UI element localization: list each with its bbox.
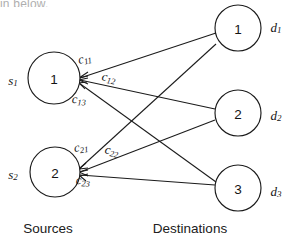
source-label-s2: s2 [8, 167, 18, 182]
source-label-s1: s1 [8, 73, 18, 88]
destination-node-d2-number: 2 [234, 107, 242, 122]
source-node-s1-number: 1 [50, 72, 58, 87]
edge-s2-d1 [79, 44, 216, 169]
source-node-s2[interactable]: 2 [30, 147, 80, 197]
destination-label-d2: d2 [271, 108, 283, 123]
destinations-caption: Destinations [153, 221, 228, 236]
destination-label-d3: d3 [271, 184, 283, 199]
edge-label-c11: c11 [76, 50, 92, 67]
bipartite-diagram-figure: in below. 1 2 1 [0, 0, 290, 243]
edge-label-c21: c21 [73, 139, 89, 155]
destination-node-d1-number: 1 [234, 22, 242, 37]
edge-label-c13: c13 [72, 92, 87, 107]
edge-s2-d3 [80, 175, 215, 185]
edge-s2-d2 [80, 120, 215, 172]
edge-group [79, 33, 216, 185]
destination-label-d1: d1 [271, 20, 282, 35]
source-node-s2-number: 2 [51, 166, 59, 181]
sources-caption: Sources [23, 221, 73, 236]
edge-s1-d2 [80, 80, 215, 109]
destination-node-d3-number: 3 [234, 182, 242, 197]
edge-label-c12: c12 [101, 69, 118, 86]
destination-node-d1[interactable]: 1 [215, 5, 261, 51]
edge-s1-d3 [79, 83, 216, 182]
arrowhead-s2-d1 [79, 163, 88, 169]
edge-s1-d1 [80, 33, 216, 78]
graph-canvas: 1 2 1 2 3 s1 s2 d1 d2 d3 c11 c12 c13 c21… [0, 0, 290, 243]
destination-node-d2[interactable]: 2 [215, 90, 261, 136]
destination-node-d3[interactable]: 3 [215, 165, 261, 211]
